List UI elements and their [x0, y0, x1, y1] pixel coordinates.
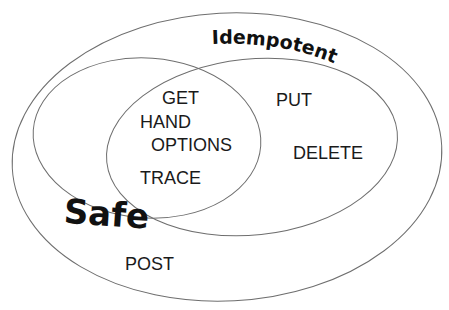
method-post: POST — [125, 254, 174, 274]
method-delete: DELETE — [293, 143, 363, 163]
method-put: PUT — [276, 90, 312, 110]
safe-title-text: Safe — [63, 191, 151, 237]
method-hand: HAND — [140, 112, 191, 132]
universe-ellipse — [5, 2, 449, 310]
method-get: GET — [162, 88, 199, 108]
method-trace: TRACE — [140, 168, 201, 188]
method-options: OPTIONS — [151, 135, 232, 155]
venn-diagram: Idempotent Safe GET HAND OPTIONS TRACE P… — [0, 0, 449, 310]
safe-set-title: Safe — [63, 191, 151, 237]
